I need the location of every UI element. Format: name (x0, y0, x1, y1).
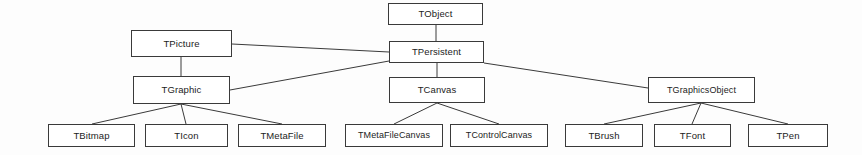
class-node-tgraphic[interactable]: TGraphic (133, 76, 230, 104)
connector-tgraphicsobject-to-tbrush (604, 103, 701, 124)
class-hierarchy-diagram: TObjectTPersistentTPictureTGraphicTCanva… (0, 0, 862, 155)
class-node-tcontrolcanvas[interactable]: TControlCanvas (450, 124, 548, 147)
connector-tgraphic-to-ticon (181, 104, 186, 124)
connector-tcanvas-to-tcontrolcanvas (437, 103, 499, 124)
connector-tcanvas-to-tmetafilecanvas (394, 103, 437, 124)
connector-tgraphic-to-tmetafile (181, 104, 282, 124)
class-node-label: TCanvas (418, 85, 457, 95)
class-node-tbitmap[interactable]: TBitmap (48, 124, 135, 147)
class-node-tpersistent[interactable]: TPersistent (389, 41, 484, 63)
class-node-label: TFont (680, 131, 705, 141)
class-node-tpen[interactable]: TPen (748, 124, 828, 147)
class-node-tfont[interactable]: TFont (654, 124, 731, 147)
class-node-label: TControlCanvas (466, 131, 532, 140)
class-node-label: TPen (776, 131, 799, 141)
connector-tgraphicsobject-to-tfont (692, 103, 701, 124)
connector-tpersistent-to-tpicture (232, 44, 389, 52)
class-node-label: TObject (419, 9, 453, 19)
class-node-label: TMetaFile (260, 131, 303, 141)
connector-tpersistent-to-tgraphic (230, 61, 389, 90)
class-node-label: TBitmap (73, 131, 109, 141)
class-node-label: TPicture (163, 39, 199, 49)
class-node-tmetafile[interactable]: TMetaFile (238, 124, 326, 147)
class-node-tmetafilecanvas[interactable]: TMetaFileCanvas (345, 124, 443, 147)
connector-tgraphicsobject-to-tpen (701, 103, 788, 124)
connector-tgraphic-to-tbitmap (92, 104, 181, 124)
class-node-label: TGraphic (162, 85, 202, 95)
class-node-label: TMetaFileCanvas (358, 131, 430, 140)
class-node-tcanvas[interactable]: TCanvas (389, 77, 485, 103)
class-node-tpicture[interactable]: TPicture (131, 30, 232, 57)
connector-tpersistent-to-tgraphicsobject (484, 63, 648, 88)
class-node-label: TPersistent (412, 47, 461, 57)
class-node-ticon[interactable]: TIcon (145, 124, 228, 147)
class-node-tgraphicsobject[interactable]: TGraphicsObject (648, 77, 755, 103)
class-node-label: TGraphicsObject (667, 86, 736, 95)
class-node-label: TBrush (588, 131, 619, 141)
class-node-label: TIcon (174, 131, 198, 141)
class-node-tbrush[interactable]: TBrush (565, 124, 643, 147)
class-node-tobject[interactable]: TObject (388, 3, 483, 25)
